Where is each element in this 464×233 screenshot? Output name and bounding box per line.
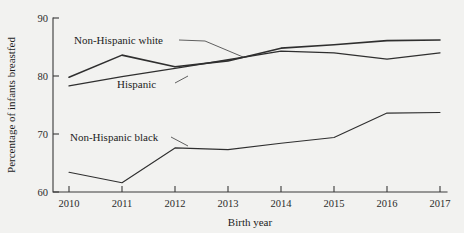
x-tick-label: 2010 (59, 198, 80, 209)
leader-non-hispanic-white (179, 40, 243, 57)
series-label-non-hispanic-white: Non-Hispanic white (74, 34, 163, 46)
series-line-non-hispanic-black (69, 113, 440, 183)
x-axis-tick-labels: 2010 2011 2012 2013 2014 2015 2016 2017 (59, 198, 451, 209)
x-tick-label: 2017 (430, 198, 451, 209)
x-tick-label: 2011 (112, 198, 133, 209)
series-label-non-hispanic-black: Non-Hispanic black (70, 131, 159, 143)
y-tick-label: 60 (38, 187, 49, 198)
leader-hispanic (175, 76, 188, 83)
x-axis-ticks (69, 186, 440, 192)
y-tick-label: 70 (38, 129, 49, 140)
y-tick-label: 90 (38, 13, 49, 24)
x-tick-label: 2015 (324, 198, 345, 209)
y-axis-ticks (53, 18, 59, 192)
chart-figure: 90 80 70 60 2010 2011 2012 2013 2014 201… (0, 0, 464, 233)
y-axis-tick-labels: 90 80 70 60 (38, 13, 49, 198)
series-label-hispanic: Hispanic (117, 78, 156, 90)
leader-non-hispanic-black (171, 137, 188, 146)
line-chart: 90 80 70 60 2010 2011 2012 2013 2014 201… (0, 0, 464, 233)
x-tick-label: 2013 (218, 198, 239, 209)
y-axis-title: Percentage of infants breastfed (5, 37, 17, 173)
x-tick-label: 2016 (377, 198, 398, 209)
x-tick-label: 2012 (165, 198, 186, 209)
x-axis-title: Birth year (228, 216, 273, 228)
y-tick-label: 80 (38, 71, 49, 82)
x-tick-label: 2014 (271, 198, 293, 209)
